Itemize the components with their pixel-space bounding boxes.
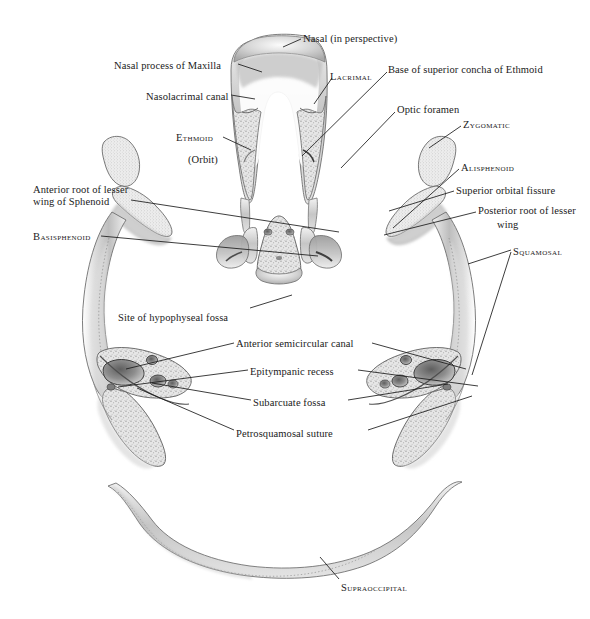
label-petrosquamosal-suture: Petrosquamosal suture	[236, 428, 333, 441]
label-supraoccipital: Supraoccipital	[341, 582, 407, 595]
left-epitympanic-recess	[103, 360, 144, 386]
right-internal-acoustic-meatus	[380, 380, 390, 388]
label-lacrimal: Lacrimal	[330, 71, 372, 84]
label-optic-foramen: Optic foramen	[397, 104, 459, 117]
label-base-superior-concha: Base of superior concha of Ethmoid	[388, 64, 543, 77]
right-anterior-semicircular-canal	[401, 356, 412, 365]
right-optic-foramen	[286, 229, 294, 235]
label-site-hypophyseal-fossa: Site of hypophyseal fossa	[118, 312, 228, 325]
label-ethmoid: Ethmoid	[176, 132, 213, 145]
label-nasal-perspective: Nasal (in perspective)	[303, 33, 397, 46]
label-epitympanic-recess: Epitympanic recess	[250, 366, 334, 379]
label-posterior-root-lesser-2: wing	[497, 219, 518, 232]
label-posterior-root-lesser-1: Posterior root of lesser	[478, 205, 576, 218]
label-anterior-semicircular: Anterior semicircular canal	[236, 338, 354, 351]
label-alisphenoid: Alisphenoid	[461, 162, 514, 175]
label-nasolacrimal-canal: Nasolacrimal canal	[146, 91, 229, 104]
right-epitympanic-recess	[414, 360, 455, 386]
skull-base-illustration	[0, 0, 590, 619]
label-orbit: (Orbit)	[188, 154, 218, 167]
sella-midline-pit	[276, 256, 282, 260]
left-optic-foramen	[264, 229, 272, 235]
label-nasal-process-maxilla: Nasal process of Maxilla	[114, 60, 221, 73]
anatomical-plate: Nasal (in perspective)Nasal process of M…	[0, 0, 590, 619]
label-basisphenoid: Basisphenoid	[33, 231, 91, 244]
label-squamosal: Squamosal	[513, 246, 562, 259]
label-anterior-root-lesser-2: wing of Sphenoid	[33, 196, 109, 209]
right-subarcuate-fossa	[392, 375, 408, 387]
label-anterior-root-lesser-1: Anterior root of lesser	[33, 184, 128, 197]
left-jugular-foramen	[107, 384, 115, 390]
label-subarcuate-fossa: Subarcuate fossa	[253, 397, 325, 410]
label-zygomatic: Zygomatic	[463, 119, 510, 132]
label-superior-orbital-fissure: Superior orbital fissure	[456, 185, 555, 198]
